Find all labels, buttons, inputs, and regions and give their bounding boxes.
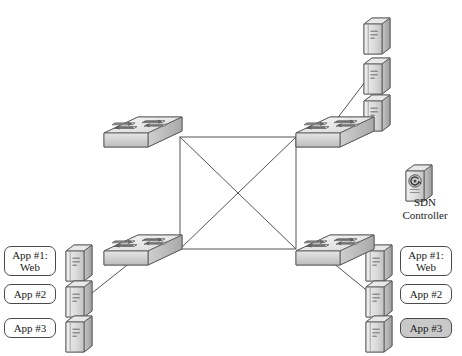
label-right-app2[interactable]: App #2 — [400, 284, 452, 304]
server-group-bottom-left — [66, 245, 92, 352]
server-icon[interactable] — [364, 18, 390, 54]
switch-icon-top-right[interactable] — [296, 117, 374, 147]
server-icon[interactable] — [66, 245, 92, 281]
label-right-app1[interactable]: App #1: Web — [400, 246, 452, 276]
server-icon[interactable] — [66, 316, 92, 352]
label-left-app1[interactable]: App #1: Web — [4, 246, 56, 276]
label-right-app3[interactable]: App #3 — [400, 318, 452, 338]
network-topology-diagram — [0, 0, 462, 356]
server-icon[interactable] — [366, 316, 392, 352]
switch-icon-bottom-left[interactable] — [104, 235, 182, 265]
full-mesh-core — [180, 137, 296, 249]
server-group-top-right — [364, 18, 390, 131]
label-left-app2[interactable]: App #2 — [4, 284, 56, 304]
server-icon[interactable] — [364, 58, 390, 94]
switch-icon-bottom-right[interactable] — [296, 235, 374, 265]
switch-icon-top-left[interactable] — [104, 117, 182, 147]
server-icon[interactable] — [66, 281, 92, 317]
label-left-app3[interactable]: App #3 — [4, 318, 56, 338]
server-group-bottom-right — [366, 245, 392, 352]
sdn-controller-caption: SDN Controller — [392, 196, 458, 222]
server-icon[interactable] — [366, 281, 392, 317]
